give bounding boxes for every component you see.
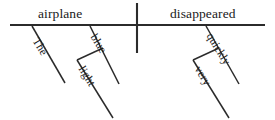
sentence-diagram: airplane disappeared The blue light quic… — [0, 0, 275, 120]
subject-word-label: airplane — [38, 7, 82, 21]
predicate-word-label: disappeared — [170, 7, 236, 21]
